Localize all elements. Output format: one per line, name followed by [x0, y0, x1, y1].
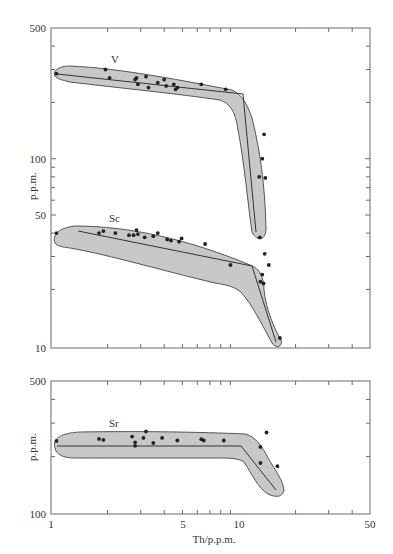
data-point — [135, 228, 139, 232]
data-point — [104, 68, 108, 72]
data-point — [262, 282, 266, 286]
data-point — [278, 336, 282, 340]
data-point — [176, 439, 180, 443]
envelope-sr — [54, 432, 284, 497]
data-point — [102, 438, 106, 442]
data-point — [156, 81, 160, 85]
data-point — [151, 234, 155, 238]
data-point — [135, 76, 139, 80]
data-point — [136, 82, 140, 86]
data-point — [143, 235, 147, 239]
data-point — [97, 437, 101, 441]
data-point — [177, 240, 181, 244]
data-point — [136, 232, 140, 236]
data-point — [97, 231, 101, 235]
top-ytick-100: 100 — [30, 153, 47, 165]
data-point — [160, 436, 164, 440]
data-point — [151, 441, 155, 445]
data-point — [130, 435, 134, 439]
top-ytick-10: 10 — [35, 342, 47, 354]
top-ytick-500: 500 — [30, 22, 47, 34]
envelope-sc — [54, 226, 281, 347]
xtick-10: 10 — [234, 518, 246, 530]
data-point — [199, 82, 203, 86]
data-point — [260, 273, 264, 277]
data-point — [133, 444, 137, 448]
data-point — [144, 430, 148, 434]
data-point — [258, 235, 262, 239]
data-point — [267, 263, 271, 267]
data-point — [203, 242, 207, 246]
data-point — [260, 157, 264, 161]
data-point — [132, 233, 136, 237]
data-point — [172, 82, 176, 86]
series-label-sc: Sc — [109, 212, 120, 224]
data-point — [229, 263, 233, 267]
data-point — [262, 132, 266, 136]
data-point — [133, 440, 137, 444]
data-point — [127, 233, 131, 237]
bottom-y-axis-label: p.p.m. — [26, 433, 38, 461]
data-point — [176, 86, 180, 90]
data-point — [263, 176, 267, 180]
xtick-1: 1 — [48, 518, 54, 530]
data-point — [265, 431, 269, 435]
x-axis-label: Th/p.p.m. — [192, 533, 235, 545]
data-point — [180, 237, 184, 241]
bottom-ytick-100: 100 — [30, 508, 47, 520]
series-label-sr: Sr — [109, 417, 119, 429]
series-label-v: V — [111, 53, 119, 65]
data-point — [169, 239, 173, 243]
bottom-panel: 500 100 1 5 10 50 p.p.m. Th/p.p.m. Sr — [26, 375, 376, 545]
data-point — [263, 252, 267, 256]
xtick-5: 5 — [180, 518, 186, 530]
xtick-50: 50 — [365, 518, 377, 530]
data-point — [165, 238, 169, 242]
data-point — [257, 175, 261, 179]
data-point — [202, 439, 206, 443]
data-point — [224, 87, 228, 91]
data-point — [162, 78, 166, 82]
data-point — [55, 439, 59, 443]
data-point — [259, 461, 263, 465]
data-point — [276, 464, 280, 468]
data-point — [55, 231, 59, 235]
data-point — [142, 436, 146, 440]
data-point — [114, 231, 118, 235]
chart: 500 100 50 10 p.p.m. V Sc 500 100 1 5 10… — [0, 0, 393, 554]
data-point — [147, 86, 151, 90]
data-point — [144, 75, 148, 79]
top-ytick-50: 50 — [35, 209, 47, 221]
data-point — [108, 76, 112, 80]
data-point — [55, 72, 59, 76]
top-panel: 500 100 50 10 p.p.m. V Sc — [26, 22, 370, 354]
bottom-ytick-500: 500 — [30, 375, 47, 387]
data-point — [156, 231, 160, 235]
top-y-axis-label: p.p.m. — [26, 172, 38, 200]
data-point — [259, 445, 263, 449]
data-point — [102, 229, 106, 233]
envelope-v — [54, 66, 266, 239]
data-point — [222, 439, 226, 443]
data-point — [164, 84, 168, 88]
